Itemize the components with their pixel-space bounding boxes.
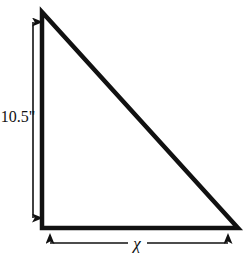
- right-triangle-diagram: 10.5" χ: [0, 0, 246, 256]
- figure-container: 10.5" χ: [0, 0, 246, 256]
- base-dimension-label: χ: [131, 234, 141, 253]
- height-dimension-label: 10.5": [1, 108, 36, 125]
- figure-background: [0, 0, 246, 256]
